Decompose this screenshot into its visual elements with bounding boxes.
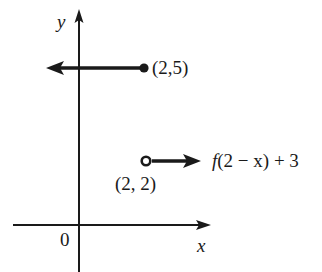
closed-point-marker bbox=[139, 63, 148, 72]
open-point-label: (2, 2) bbox=[115, 174, 156, 193]
closed-point-label: (2,5) bbox=[152, 58, 188, 77]
function-expression-label: f(2 − x) + 3 bbox=[212, 151, 299, 170]
function-graph-figure: y x 0 (2,5) (2, 2) f(2 − x) + 3 bbox=[0, 0, 322, 272]
x-axis-label: x bbox=[197, 236, 205, 255]
y-axis-label: y bbox=[57, 12, 65, 31]
graph-canvas bbox=[0, 0, 322, 272]
open-point-marker bbox=[142, 157, 151, 166]
origin-label: 0 bbox=[60, 230, 70, 249]
function-expression-body: (2 − x) + 3 bbox=[217, 150, 299, 171]
